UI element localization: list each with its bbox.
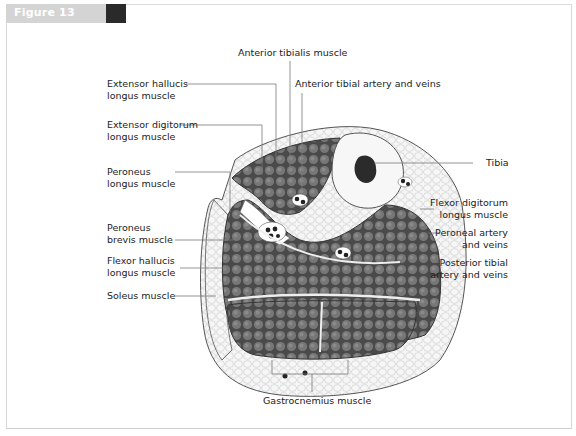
label-extensor-digitorum-line1: Extensor digitorum	[107, 119, 198, 131]
label-extensor-digitorum-line2: longus muscle	[107, 131, 175, 143]
label-soleus: Soleus muscle	[107, 290, 175, 302]
label-anterior-tibial-artery: Anterior tibial artery and veins	[295, 78, 441, 90]
label-anterior-tibialis: Anterior tibialis muscle	[238, 47, 347, 59]
label-flexor-hallucis-line2: longus muscle	[107, 267, 175, 279]
label-extensor-hallucis-line1: Extensor hallucis	[107, 78, 188, 90]
label-flexor-hallucis-line1: Flexor hallucis	[107, 255, 175, 267]
label-tibia: Tibia	[486, 157, 509, 169]
anterior-tibial-vessels	[292, 194, 308, 206]
posterior-tibial-vessels	[335, 247, 351, 259]
label-peroneus-brevis-line1: Peroneus	[107, 222, 151, 234]
label-peroneal-artery-line1: Peroneal artery	[435, 227, 508, 239]
label-peroneus-brevis-line2: brevis muscle	[107, 234, 173, 246]
label-posterior-tibial-line1: Posterior tibial	[440, 257, 509, 269]
label-gastrocnemius: Gastrocnemius muscle	[263, 395, 371, 407]
label-peroneal-artery-line2: and veins	[462, 239, 508, 251]
label-extensor-hallucis-line2: longus muscle	[107, 90, 175, 102]
label-flexor-digitorum-line1: Flexor digitorum	[430, 197, 508, 209]
saphenous-vessels	[398, 177, 412, 187]
label-posterior-tibial-line2: artery and veins	[430, 269, 508, 281]
label-peroneus-longus-line1: Peroneus	[107, 166, 151, 178]
label-flexor-digitorum-line2: longus muscle	[440, 209, 508, 221]
label-peroneus-longus-line2: longus muscle	[107, 178, 175, 190]
